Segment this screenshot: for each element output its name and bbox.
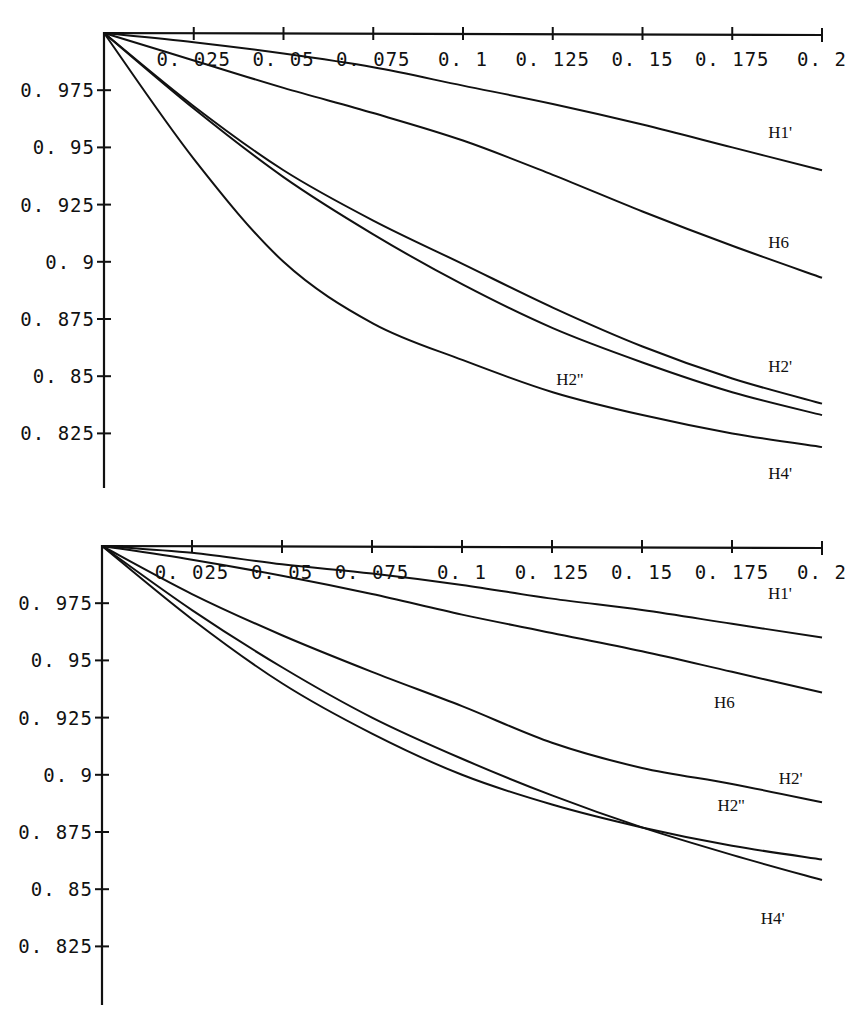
chart-svg: 0. 0250. 050. 0750. 10. 1250. 150. 1750.… — [0, 0, 861, 500]
series-line-h1p — [102, 546, 822, 638]
series-label: H2' — [779, 769, 803, 788]
axes — [104, 33, 822, 488]
x-tick-label: 0. 125 — [515, 561, 590, 583]
series-label: H2'' — [718, 796, 745, 815]
series-label: H6 — [768, 233, 789, 252]
y-tick-label: 0. 925 — [20, 194, 95, 216]
y-tick-label: 0. 9 — [45, 251, 95, 273]
y-tick-label: 0. 95 — [31, 649, 93, 671]
y-tick-label: 0. 975 — [20, 79, 95, 101]
x-tick-label: 0. 15 — [611, 561, 673, 583]
y-tick-label: 0. 85 — [33, 365, 95, 387]
series-label: H2'' — [556, 370, 583, 389]
y-tick-label: 0. 925 — [18, 707, 93, 729]
x-tick-label: 0. 2 — [797, 561, 847, 583]
y-tick-label: 0. 975 — [18, 592, 93, 614]
y-tick-label: 0. 95 — [33, 136, 95, 158]
y-tick-label: 0. 875 — [18, 821, 93, 843]
x-tick-label: 0. 1 — [437, 561, 487, 583]
y-tick-label: 0. 825 — [20, 422, 95, 444]
series-line-h2p — [104, 33, 822, 404]
series-line-h2pp — [104, 33, 822, 415]
chart-svg: 0. 0250. 050. 0750. 10. 1250. 150. 1750.… — [0, 513, 861, 1023]
x-tick-label: 0. 075 — [335, 561, 410, 583]
chart-top: 0. 0250. 050. 0750. 10. 1250. 150. 1750.… — [0, 0, 861, 500]
series-label: H1' — [768, 584, 792, 603]
x-tick-label: 0. 125 — [515, 48, 590, 70]
x-tick-label: 0. 175 — [695, 48, 770, 70]
x-tick-label: 0. 15 — [611, 48, 673, 70]
x-tick-label: 0. 025 — [156, 48, 231, 70]
series-label: H2' — [768, 357, 792, 376]
y-tick-label: 0. 85 — [31, 878, 93, 900]
y-tick-label: 0. 825 — [18, 935, 93, 957]
series-label: H4' — [768, 464, 792, 483]
series-label: H4' — [761, 909, 785, 928]
chart-bottom: 0. 0250. 050. 0750. 10. 1250. 150. 1750.… — [0, 513, 861, 1023]
y-tick-label: 0. 875 — [20, 308, 95, 330]
series-line-h4p — [102, 546, 822, 880]
x-tick-label: 0. 175 — [695, 561, 770, 583]
y-tick-label: 0. 9 — [43, 764, 93, 786]
x-tick-label: 0. 1 — [438, 48, 488, 70]
series-label: H1' — [768, 123, 792, 142]
series-label: H6 — [714, 693, 735, 712]
x-tick-label: 0. 2 — [797, 48, 847, 70]
